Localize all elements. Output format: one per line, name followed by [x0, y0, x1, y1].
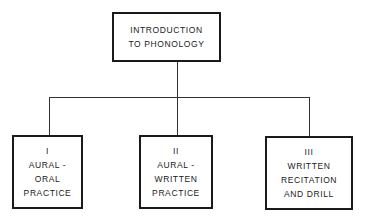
child-node-written-recitation-and-drill: III WRITTEN RECITATION AND DRILL: [265, 136, 353, 210]
connector-horizontal-bus: [49, 97, 310, 98]
child-node-2-line-1: AURAL -: [157, 158, 194, 172]
root-node-line-1: INTRODUCTION: [130, 23, 202, 37]
child-node-2-line-2: WRITTEN: [155, 172, 198, 186]
child-node-aural-written-practice: II AURAL - WRITTEN PRACTICE: [139, 135, 213, 209]
child-node-2-numeral: II: [173, 144, 179, 158]
child-node-3-line-3: AND DRILL: [284, 187, 334, 201]
root-node-line-2: TO PHONOLOGY: [128, 37, 204, 51]
child-node-1-line-1: AURAL -: [29, 158, 66, 172]
child-node-2-line-3: PRACTICE: [152, 186, 200, 200]
connector-bus-to-node-2: [177, 97, 178, 135]
root-node-introduction-to-phonology: INTRODUCTION TO PHONOLOGY: [112, 12, 221, 62]
child-node-1-line-2: ORAL: [35, 172, 61, 186]
child-node-3-line-1: WRITTEN: [288, 159, 331, 173]
connector-bus-to-node-3: [309, 97, 310, 136]
child-node-1-line-3: PRACTICE: [24, 186, 72, 200]
child-node-1-numeral: I: [46, 144, 49, 158]
connector-bus-to-node-1: [49, 97, 50, 135]
connector-root-to-bus: [177, 62, 178, 98]
child-node-aural-oral-practice: I AURAL - ORAL PRACTICE: [12, 135, 83, 209]
child-node-3-numeral: III: [305, 145, 314, 159]
child-node-3-line-2: RECITATION: [281, 173, 337, 187]
